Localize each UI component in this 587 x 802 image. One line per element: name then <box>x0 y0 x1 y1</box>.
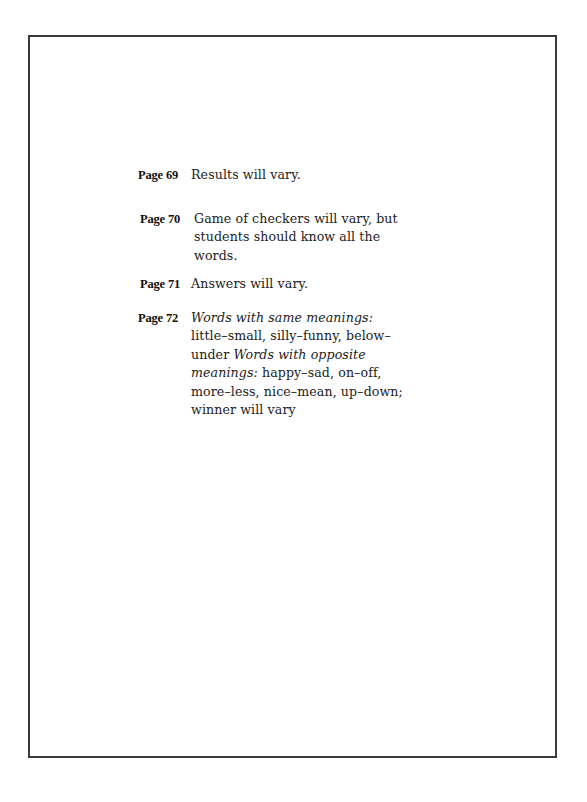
entry-page-label: Page 71 <box>30 275 180 294</box>
answer-key-page-frame: Page 69 Results will vary. Page 70 Game … <box>28 35 557 758</box>
entry-page-label: Page 69 <box>30 166 178 185</box>
entry-page-label: Page 70 <box>30 210 180 229</box>
entry-answer-text: Answers will vary. <box>191 275 409 293</box>
entry-answer-text: Words with same meanings: little–small, … <box>191 309 409 419</box>
entry-page-label: Page 72 <box>30 309 178 328</box>
same-meanings-heading: Words with same meanings: <box>191 310 373 325</box>
entry-answer-text: Results will vary. <box>191 166 409 184</box>
entry-answer-text: Game of checkers will vary, but students… <box>194 210 412 265</box>
